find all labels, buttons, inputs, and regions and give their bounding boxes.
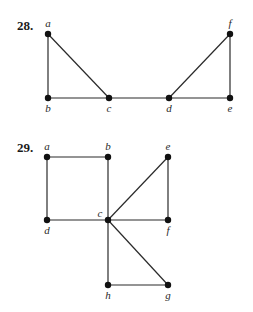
graph-diagrams: 28. abcdef 29. abecdfhg [0,0,253,312]
vertex-label-b: b [105,140,111,152]
vertex-label-h: h [105,289,111,301]
vertex-label-f: f [166,224,171,236]
vertex-b [45,95,51,101]
vertex-c [106,95,112,101]
vertex-label-g: g [165,289,171,301]
figure-number: 29. [17,140,33,155]
edge-d-f [169,34,230,98]
vertex-a [45,31,51,37]
vertex-c [105,217,111,223]
vertex-f [227,31,233,37]
vertex-d [166,95,172,101]
vertex-d [44,217,50,223]
vertex-label-c: c [107,102,112,114]
vertex-label-e: e [228,102,233,114]
edge-c-e [108,157,168,220]
vertex-e [165,154,171,160]
figure-29: 29. abecdfhg [17,140,171,301]
edge-a-c [48,34,109,98]
vertex-label-e: e [166,140,171,152]
vertex-g [165,282,171,288]
edges [48,34,230,98]
vertex-e [227,95,233,101]
vertex-label-f: f [228,17,233,29]
vertex-label-d: d [44,224,50,236]
vertices [45,31,233,101]
vertex-f [165,217,171,223]
vertex-b [105,154,111,160]
vertex-labels: abcdef [45,17,233,114]
vertex-label-a: a [45,17,51,29]
vertex-label-c: c [98,207,103,219]
vertex-h [105,282,111,288]
vertex-label-b: b [45,102,51,114]
figure-number: 28. [17,18,33,33]
figure-28: 28. abcdef [17,17,233,114]
vertex-a [44,154,50,160]
vertex-label-a: a [44,140,50,152]
vertex-label-d: d [166,102,172,114]
edge-c-g [108,220,168,285]
